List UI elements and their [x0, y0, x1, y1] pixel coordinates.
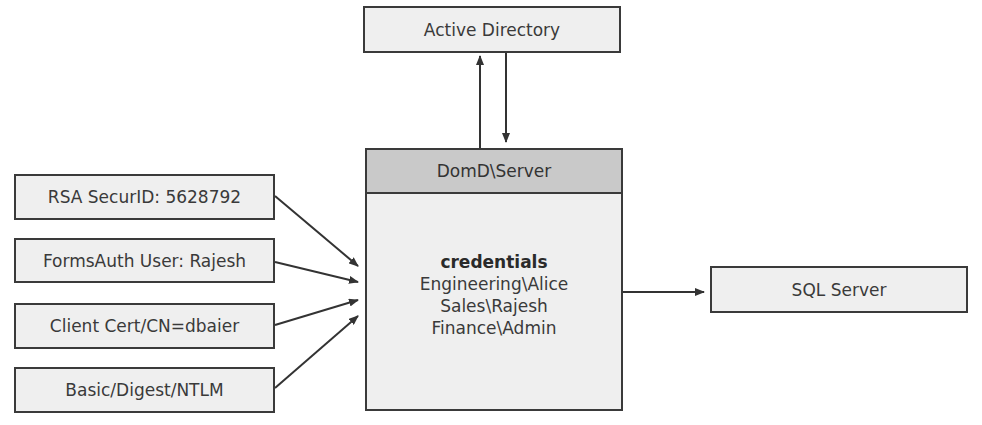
client-label: RSA SecurID: 5628792 [48, 187, 241, 207]
server-header: DomD\Server [367, 150, 621, 194]
client-rsa-securid-box: RSA SecurID: 5628792 [14, 174, 275, 220]
client-formsauth-box: FormsAuth User: Rajesh [14, 238, 275, 283]
credential-entry: Engineering\Alice [420, 273, 569, 295]
sql-server-box: SQL Server [710, 266, 968, 313]
sql-server-label: SQL Server [792, 280, 887, 300]
arrow-rsa-to-server [275, 196, 358, 266]
arrow-basic-to-server [275, 316, 358, 388]
arrow-cert-to-server [275, 300, 358, 325]
client-basic-digest-ntlm-box: Basic/Digest/NTLM [14, 367, 275, 413]
client-label: FormsAuth User: Rajesh [43, 251, 246, 271]
active-directory-box: Active Directory [363, 6, 621, 53]
server-name: DomD\Server [437, 161, 552, 181]
arrow-forms-to-server [275, 262, 358, 282]
server-box: DomD\Server credentials Engineering\Alic… [365, 148, 623, 411]
client-cert-box: Client Cert/CN=dbaier [14, 303, 275, 349]
active-directory-label: Active Directory [424, 20, 560, 40]
credential-entry: Sales\Rajesh [440, 295, 548, 317]
credentials-title: credentials [440, 251, 547, 273]
client-label: Client Cert/CN=dbaier [50, 316, 239, 336]
client-label: Basic/Digest/NTLM [65, 380, 223, 400]
credential-entry: Finance\Admin [432, 317, 557, 339]
credentials-store: credentials Engineering\Alice Sales\Raje… [367, 194, 621, 409]
